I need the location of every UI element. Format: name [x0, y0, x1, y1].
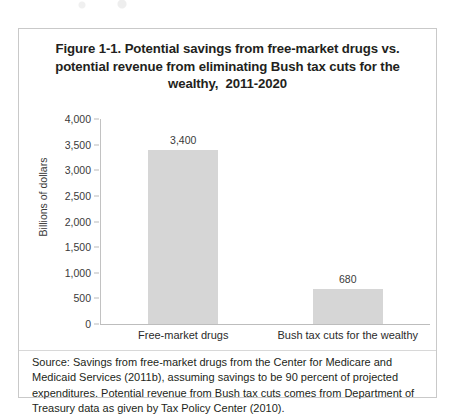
y-axis-tick-mark — [94, 272, 99, 273]
x-axis-category-label: Free-market drugs — [101, 329, 266, 341]
y-axis-title: Billions of dollars — [37, 137, 49, 257]
bar-slot: 680 — [266, 119, 431, 324]
y-axis-tick-label: 3,500 — [65, 139, 91, 151]
bar-series: 3,400680 — [101, 119, 430, 324]
y-axis-tick-mark — [94, 221, 99, 222]
y-axis-tick-label: 0 — [85, 318, 91, 330]
y-axis-tick-mark — [94, 144, 99, 145]
y-axis-tick-label: 3,000 — [65, 164, 91, 176]
y-axis-tick-mark — [94, 119, 99, 120]
plot-area: Billions of dollars 4,0003,5003,0002,500… — [19, 95, 436, 347]
y-axis-tick-mark — [94, 324, 99, 325]
bar[interactable] — [148, 150, 218, 324]
y-axis-tick-mark — [94, 195, 99, 196]
y-axis-tick-mark — [94, 298, 99, 299]
bar[interactable] — [313, 289, 383, 324]
bar-slot: 3,400 — [101, 119, 266, 324]
x-axis-category-labels: Free-market drugsBush tax cuts for the w… — [101, 329, 430, 341]
y-axis-tick-label: 1,000 — [65, 267, 91, 279]
x-axis-category-label: Bush tax cuts for the wealthy — [266, 329, 431, 341]
source-note: Source: Savings from free-market drugs f… — [19, 355, 436, 414]
figure-container: Figure 1-1. Potential savings from free-… — [18, 28, 437, 398]
source-divider — [19, 350, 436, 351]
y-axis-tick-mark — [94, 170, 99, 171]
y-axis-tick-label: 1,500 — [65, 241, 91, 253]
y-axis-tick-mark — [94, 247, 99, 248]
y-axis-tick-label: 2,000 — [65, 216, 91, 228]
y-axis-tick-label: 4,000 — [65, 113, 91, 125]
chart-title: Figure 1-1. Potential savings from free-… — [19, 29, 436, 93]
bar-value-label: 3,400 — [170, 134, 196, 146]
y-axis-tick-label: 2,500 — [65, 190, 91, 202]
bar-value-label: 680 — [339, 273, 357, 285]
scan-artifact — [70, 0, 160, 10]
y-axis-ticks: 4,0003,5003,0002,5002,0001,5001,0005000 — [53, 119, 99, 324]
y-axis-tick-label: 500 — [73, 292, 91, 304]
x-axis-line — [100, 324, 430, 325]
